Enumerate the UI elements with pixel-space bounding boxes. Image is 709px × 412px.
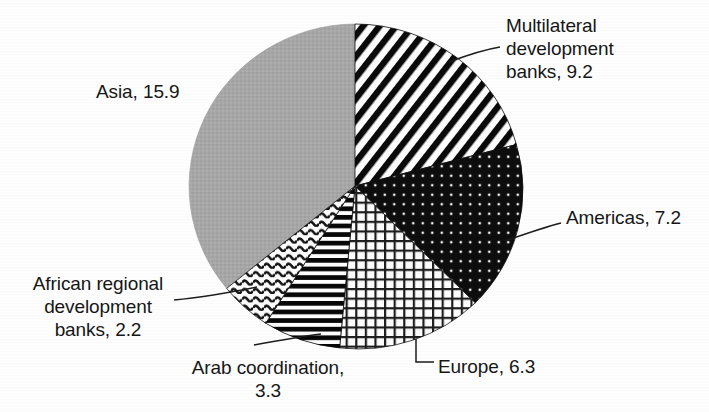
- pie-label-arab-coordination: Arab coordination, 3.3: [168, 356, 368, 402]
- pie-label-asia: Asia, 15.9: [96, 80, 236, 103]
- pie-label-multilateral-development-banks: Multilateral development banks, 9.2: [506, 14, 686, 83]
- leader-line-multilateral: [449, 47, 500, 62]
- pie-label-african-regional-development-banks: African regional development banks, 2.2: [8, 272, 188, 341]
- pie-label-americas: Americas, 7.2: [566, 206, 709, 229]
- pie-label-europe: Europe, 6.3: [438, 355, 598, 378]
- leader-line-europe: [416, 339, 434, 362]
